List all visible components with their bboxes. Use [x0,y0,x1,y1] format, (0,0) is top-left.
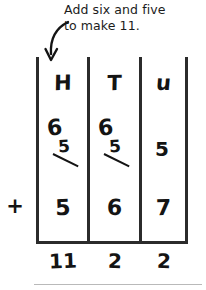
column-header-units: u [141,73,186,95]
column-header-tens: T [90,73,139,95]
column-units: u 5 7 [142,57,185,244]
addend-one-tens: 6 5 [90,117,139,167]
answer-row: 11 2 2 [36,250,188,276]
addend-one-hundreds: 6 5 [39,117,87,167]
answer-hundreds: 11 [38,249,89,273]
addend-two-hundreds: 5 [39,196,88,220]
column-tens: T 6 5 6 [90,57,139,244]
answer-units: 2 [142,249,187,273]
column-hundreds: H 6 5 5 [39,57,87,244]
answer-tens: 2 [90,249,141,273]
page-rule-line [34,284,202,285]
column-header-hundreds: H [39,72,87,95]
plus-operator: + [5,196,25,217]
instruction-line-1: Add six and five [64,2,204,18]
addend-two-units: 7 [142,197,185,220]
addend-one-units: 5 [142,117,185,167]
grid-line-right [185,57,188,244]
digit-struck-hundreds: 5 [57,138,70,156]
digit-struck-tens: 5 [108,138,121,156]
addend-two-tens: 6 [90,197,139,220]
digit-original-units: 5 [155,139,169,159]
place-value-grid: H 6 5 5 T 6 5 6 u 5 7 [36,57,188,244]
